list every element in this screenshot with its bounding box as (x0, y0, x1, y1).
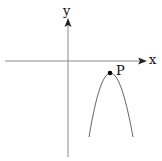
diagram-svg (0, 0, 162, 161)
parabola-curve (89, 73, 133, 137)
vertex-label: P (116, 64, 125, 77)
vertex-point-p (108, 71, 113, 76)
x-axis-label: x (149, 53, 156, 66)
diagram-canvas: x y P (0, 0, 162, 161)
y-axis-label: y (63, 4, 70, 17)
x-axis (5, 58, 147, 65)
y-axis (65, 18, 72, 157)
